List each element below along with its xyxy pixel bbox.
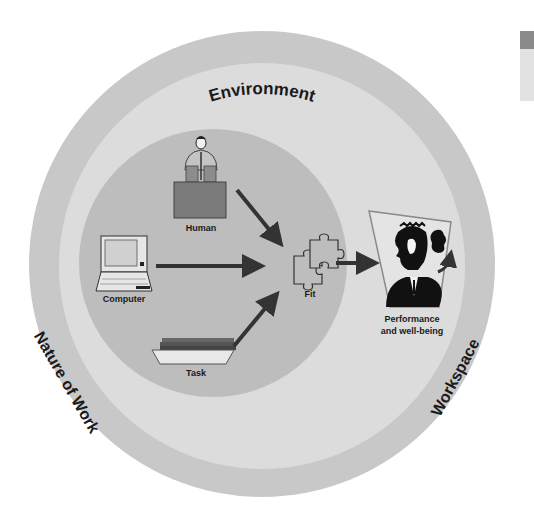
swatch-light <box>520 49 534 101</box>
swatch-dark <box>520 31 534 49</box>
performance-label-line1: Performance <box>384 314 439 324</box>
human-label: Human <box>186 223 217 233</box>
fit-label: Fit <box>305 289 316 299</box>
performance-label-line2: and well-being <box>381 326 444 336</box>
edge-color-swatch <box>520 31 534 101</box>
laptop-icon <box>96 236 152 291</box>
computer-label: Computer <box>103 294 146 304</box>
task-label: Task <box>186 368 207 378</box>
fit-model-diagram: Environment Nature of Work Workspace Hum… <box>0 0 534 506</box>
paper-tray-icon <box>152 338 236 364</box>
